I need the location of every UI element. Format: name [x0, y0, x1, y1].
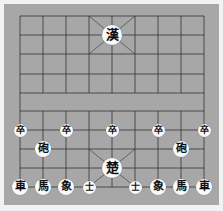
piece-advisor-right[interactable]: 士	[129, 181, 142, 194]
piece-soldier-1[interactable]: 卒	[14, 124, 27, 137]
piece-cannon-right[interactable]: 砲	[173, 141, 189, 157]
piece-general-top[interactable]: 漢	[102, 25, 122, 45]
piece-cannon-left[interactable]: 砲	[35, 141, 51, 157]
piece-horse-left[interactable]: 馬	[35, 179, 51, 195]
piece-horse-right[interactable]: 馬	[173, 179, 189, 195]
piece-chariot-left[interactable]: 車	[12, 179, 28, 195]
piece-soldier-3[interactable]: 卒	[106, 124, 119, 137]
piece-soldier-5[interactable]: 卒	[198, 124, 211, 137]
piece-chariot-right[interactable]: 車	[196, 179, 212, 195]
piece-soldier-2[interactable]: 卒	[60, 124, 73, 137]
piece-elephant-right[interactable]: 象	[150, 179, 166, 195]
piece-soldier-4[interactable]: 卒	[152, 124, 165, 137]
piece-advisor-left[interactable]: 士	[83, 181, 96, 194]
piece-elephant-left[interactable]: 象	[58, 179, 74, 195]
piece-general-bottom[interactable]: 楚	[102, 158, 122, 178]
xiangqi-board[interactable]: 漢卒卒卒卒卒砲砲楚車馬象士士象馬車	[4, 4, 219, 205]
